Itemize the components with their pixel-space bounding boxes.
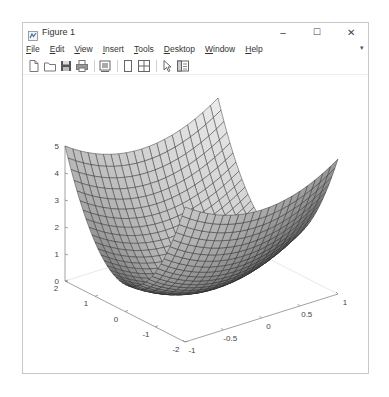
menu-help[interactable]: Help [242,44,266,54]
matlab-figure-icon [28,27,38,37]
z-tick-label: 3 [55,196,60,205]
toolbar-separator [117,60,118,72]
pointer-icon [160,59,174,73]
print-figure-button[interactable] [75,59,89,73]
y-tick-label: 0 [114,315,119,324]
figure-toolbar [23,57,368,75]
y-tick-label: 2 [54,284,59,293]
x-tick-label: 1 [343,298,348,307]
y-tick-label: -2 [172,345,180,354]
z-tick-label: 5 [55,142,60,151]
figure-window: Figure 1 – ☐ ✕ FileEditViewInsertToolsDe… [22,22,369,374]
menu-label-rest: iew [80,44,93,54]
menu-tools[interactable]: Tools [131,44,158,54]
menu-label-rest: nsert [105,44,124,54]
minimize-icon: – [280,27,286,38]
open-folder-icon [43,59,57,73]
menu-label-rest: dit [55,44,64,54]
y-tick-label: 1 [84,299,89,308]
menu-bar: FileEditViewInsertToolsDesktopWindowHelp… [23,41,368,57]
maximize-button[interactable]: ☐ [300,23,334,41]
x-tick-label: 0 [266,322,271,331]
save-icon [59,59,73,73]
plot-area[interactable]: 012345-2-1012-1-0.500.51 [23,76,368,373]
link-plot-button[interactable] [98,59,112,73]
surface [65,98,338,295]
menu-label-rest: ools [138,44,154,54]
colorbar-icon [121,59,135,73]
menu-insert[interactable]: Insert [100,44,128,54]
menu-desktop[interactable]: Desktop [161,44,199,54]
insert-colorbar-button[interactable] [121,59,135,73]
new-figure-button[interactable] [27,59,41,73]
print-icon [75,59,89,73]
close-icon: ✕ [347,27,355,38]
close-button[interactable]: ✕ [334,23,368,41]
x-tick-label: 0.5 [301,310,313,319]
edit-plot-button[interactable] [160,59,174,73]
menu-window[interactable]: Window [202,44,239,54]
menu-label-rest: elp [251,44,262,54]
insert-legend-button[interactable] [137,59,151,73]
menu-label-rest: indow [213,44,235,54]
menu-view[interactable]: View [71,44,96,54]
title-bar[interactable]: Figure 1 – ☐ ✕ [23,23,368,41]
z-tick-label: 2 [55,223,60,232]
x-tick-label: -0.5 [223,334,237,343]
window-title: Figure 1 [42,27,75,37]
menu-edit[interactable]: Edit [47,44,69,54]
x-tick-label: -1 [188,346,196,355]
toolbar-separator [156,60,157,72]
menu-label-rest: esktop [170,44,195,54]
toolbar-separator [94,60,95,72]
z-tick-label: 4 [55,169,60,178]
y-tick-label: -1 [142,330,150,339]
link-plot-icon [98,59,112,73]
open-file-button[interactable] [43,59,57,73]
surface-plot[interactable]: 012345-2-1012-1-0.500.51 [23,76,370,375]
property-inspector-button[interactable] [176,59,190,73]
legend-icon [137,59,151,73]
menu-file[interactable]: File [23,44,44,54]
minimize-button[interactable]: – [266,23,300,41]
menu-overflow-arrow-icon[interactable]: ▾ [360,44,364,52]
save-figure-button[interactable] [59,59,73,73]
new-file-icon [27,59,41,73]
property-inspector-icon [176,59,190,73]
z-tick-label: 1 [55,250,60,259]
maximize-icon: ☐ [313,27,321,37]
menu-label-rest: ile [31,44,40,54]
